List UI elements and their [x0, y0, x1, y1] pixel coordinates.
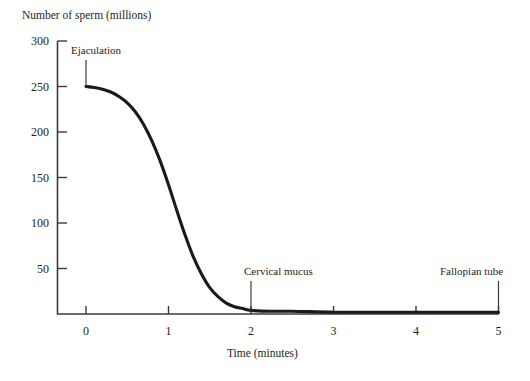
y-axis-ticks [58, 41, 68, 269]
x-tick-label-5: 5 [484, 325, 514, 337]
y-axis-title: Number of sperm (millions) [22, 10, 151, 22]
annotation-ejaculation-label: Ejaculation [71, 45, 121, 56]
y-tick-label-300: 300 [15, 35, 49, 47]
x-tick-label-2: 2 [236, 325, 266, 337]
chart-figure: Number of sperm (millions) Time (minutes… [0, 0, 530, 381]
y-tick-label-100: 100 [15, 217, 49, 229]
y-tick-label-200: 200 [15, 126, 49, 138]
annotation-cervical-mucus-label: Cervical mucus [244, 266, 313, 277]
x-axis-title: Time (minutes) [227, 348, 298, 360]
x-tick-label-4: 4 [401, 325, 431, 337]
x-tick-label-0: 0 [71, 325, 101, 337]
y-tick-label-250: 250 [15, 81, 49, 93]
annotation-fallopian-tube-label: Fallopian tube [440, 266, 503, 277]
y-tick-label-50: 50 [15, 263, 49, 275]
x-tick-label-3: 3 [319, 325, 349, 337]
y-tick-label-150: 150 [15, 172, 49, 184]
x-tick-label-1: 1 [154, 325, 184, 337]
chart-plot-area [0, 0, 530, 381]
sperm-count-curve [86, 87, 499, 313]
